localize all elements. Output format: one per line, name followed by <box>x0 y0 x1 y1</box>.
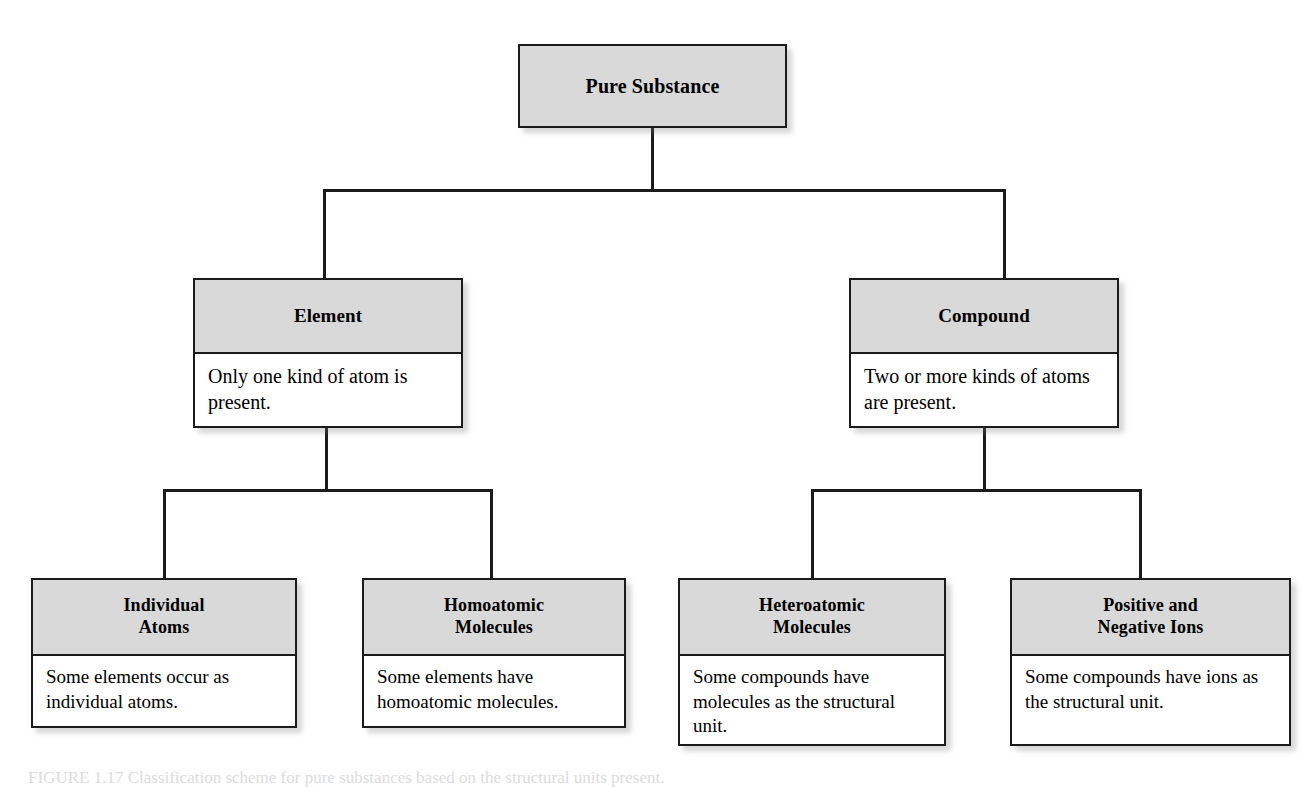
node-individual-atoms-title-line1: Individual <box>123 595 204 615</box>
node-compound[interactable]: Compound Two or more kinds of atoms are … <box>849 278 1119 428</box>
node-pure-substance-title: Pure Substance <box>520 46 785 126</box>
node-compound-description: Two or more kinds of atoms are present. <box>851 354 1117 426</box>
node-element[interactable]: Element Only one kind of atom is present… <box>193 278 463 428</box>
connector-to-element <box>323 189 326 280</box>
node-positive-negative-ions-title-line1: Positive and <box>1103 595 1198 615</box>
connector-to-positive-negative-ions <box>1139 489 1142 580</box>
node-heteroatomic-molecules-title-line2: Molecules <box>773 617 851 637</box>
connector-to-individual-atoms <box>163 489 166 580</box>
node-homoatomic-molecules-title-line1: Homoatomic <box>444 595 544 615</box>
node-heteroatomic-molecules-title: Heteroatomic Molecules <box>680 580 944 656</box>
node-positive-negative-ions-description: Some compounds have ions as the structur… <box>1012 656 1289 744</box>
node-individual-atoms-title: Individual Atoms <box>33 580 295 656</box>
diagram-canvas: Pure Substance Element Only one kind of … <box>0 0 1306 787</box>
connector-compound-bus <box>811 489 1142 492</box>
connector-to-heteroatomic-molecules <box>811 489 814 580</box>
node-homoatomic-molecules-description: Some elements have homoatomic molecules. <box>364 656 624 726</box>
connector-element-stem <box>325 428 328 491</box>
node-heteroatomic-molecules-description: Some compounds have molecules as the str… <box>680 656 944 744</box>
connector-element-bus <box>163 489 493 492</box>
node-heteroatomic-molecules-title-line1: Heteroatomic <box>759 595 865 615</box>
connector-level2-bus <box>323 189 1006 192</box>
connector-root-stem <box>651 128 654 192</box>
node-element-description: Only one kind of atom is present. <box>195 354 461 426</box>
figure-caption: FIGURE 1.17 Classification scheme for pu… <box>28 768 1278 787</box>
node-positive-negative-ions-title: Positive and Negative Ions <box>1012 580 1289 656</box>
node-positive-negative-ions[interactable]: Positive and Negative Ions Some compound… <box>1010 578 1291 746</box>
figure-caption-text: FIGURE 1.17 Classification scheme for pu… <box>28 768 664 787</box>
node-homoatomic-molecules-title-line2: Molecules <box>455 617 533 637</box>
node-homoatomic-molecules[interactable]: Homoatomic Molecules Some elements have … <box>362 578 626 728</box>
node-individual-atoms-description: Some elements occur as individual atoms. <box>33 656 295 726</box>
node-pure-substance[interactable]: Pure Substance <box>518 44 787 128</box>
node-individual-atoms[interactable]: Individual Atoms Some elements occur as … <box>31 578 297 728</box>
connector-to-homoatomic-molecules <box>490 489 493 580</box>
connector-compound-stem <box>983 428 986 491</box>
node-compound-title: Compound <box>851 280 1117 354</box>
connector-to-compound <box>1003 189 1006 280</box>
node-homoatomic-molecules-title: Homoatomic Molecules <box>364 580 624 656</box>
node-positive-negative-ions-title-line2: Negative Ions <box>1098 617 1204 637</box>
node-individual-atoms-title-line2: Atoms <box>139 617 190 637</box>
node-element-title: Element <box>195 280 461 354</box>
node-heteroatomic-molecules[interactable]: Heteroatomic Molecules Some compounds ha… <box>678 578 946 746</box>
